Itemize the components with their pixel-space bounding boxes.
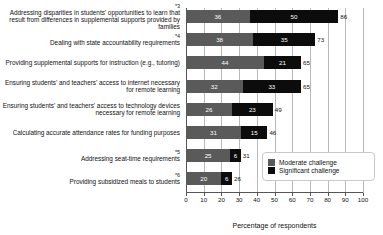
bar-segment-moderate: 32 <box>186 80 243 93</box>
bar-total-label: 65 <box>301 80 310 93</box>
x-axis-title: Percentage of respondents <box>186 222 363 229</box>
bar-segment-significant: 21 <box>264 56 301 69</box>
category-label-text: Calculating accurate attendance rates fo… <box>13 129 180 136</box>
category-label-text: Providing supplemental supports for inst… <box>6 59 180 66</box>
bar-row: 383573 <box>186 33 363 46</box>
bar-total-label: 26 <box>232 172 241 185</box>
legend-item-significant: Significant challenge <box>268 167 369 174</box>
bar-segment-moderate: 31 <box>186 126 241 139</box>
bar-segment-moderate: 36 <box>186 10 250 23</box>
bar-segment-significant: 35 <box>253 33 315 46</box>
category-label-text: Addressing seat-time requirements <box>81 155 180 162</box>
chart-legend: Moderate challenge Significant challenge <box>262 152 375 181</box>
bar-segment-significant: 6 <box>221 172 232 185</box>
bar-row: 365086 <box>186 10 363 23</box>
category-label: Ensuring students' and teachers' access … <box>0 79 180 94</box>
bar-segment-significant: 33 <box>243 80 301 93</box>
category-label-text: Addressing disparities in students' oppo… <box>9 9 180 31</box>
category-label: Calculating accurate attendance rates fo… <box>0 129 180 136</box>
bar-segment-moderate: 44 <box>186 56 264 69</box>
category-label: *4Dealing with state accountability requ… <box>0 33 180 46</box>
category-label-text: Dealing with state accountability requir… <box>50 39 180 46</box>
bar-segment-significant: 23 <box>232 103 273 116</box>
category-label: Ensuring students' and teachers' access … <box>0 102 180 117</box>
category-label-text: Ensuring students' and teachers' access … <box>5 79 180 93</box>
bar-total-label: 31 <box>241 149 250 162</box>
bar-total-label: 86 <box>338 10 347 23</box>
bar-row: 442165 <box>186 56 363 69</box>
bar-segment-moderate: 20 <box>186 172 221 185</box>
legend-swatch-moderate <box>268 159 275 166</box>
bar-segment-moderate: 25 <box>186 149 230 162</box>
bar-segment-moderate: 38 <box>186 33 253 46</box>
bar-segment-significant: 15 <box>241 126 268 139</box>
category-label: *6Providing subsidized meals to students <box>0 172 180 185</box>
category-label: *3Addressing disparities in students' op… <box>0 3 180 31</box>
bar-segment-significant: 6 <box>230 149 241 162</box>
bar-total-label: 65 <box>301 56 310 69</box>
bar-row: 323365 <box>186 80 363 93</box>
bar-total-label: 46 <box>267 126 276 139</box>
bar-row: 262349 <box>186 103 363 116</box>
bar-total-label: 49 <box>273 103 282 116</box>
x-tick-label-100: 100 <box>353 196 373 203</box>
category-label-text: Ensuring students' and teachers' access … <box>3 102 180 116</box>
legend-item-moderate: Moderate challenge <box>268 159 369 166</box>
bar-total-label: 73 <box>315 33 324 46</box>
legend-swatch-significant <box>268 167 275 174</box>
legend-label-significant: Significant challenge <box>279 167 339 174</box>
category-label-text: Providing subsidized meals to students <box>70 178 180 185</box>
category-label: *5Addressing seat-time requirements <box>0 149 180 162</box>
legend-label-moderate: Moderate challenge <box>279 159 337 166</box>
bar-segment-moderate: 26 <box>186 103 232 116</box>
bar-row: 311546 <box>186 126 363 139</box>
category-label: Providing supplemental supports for inst… <box>0 59 180 66</box>
stacked-bar-chart: *3Addressing disparities in students' op… <box>0 0 383 235</box>
bar-segment-significant: 50 <box>250 10 339 23</box>
